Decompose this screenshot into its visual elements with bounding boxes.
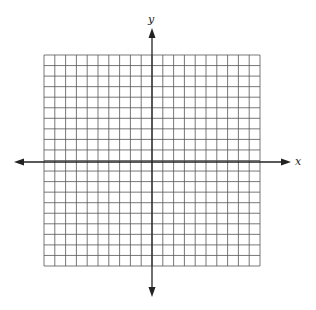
x-axis-right-arrow-icon — [281, 159, 291, 166]
y-axis-bottom-arrow-icon — [149, 287, 156, 297]
y-axis-top-arrow-icon — [149, 28, 156, 38]
x-axis-left-arrow-icon — [14, 159, 24, 166]
y-axis-label: y — [147, 13, 155, 26]
x-axis-label: x — [295, 155, 302, 168]
coordinate-plane: x y — [0, 0, 316, 310]
